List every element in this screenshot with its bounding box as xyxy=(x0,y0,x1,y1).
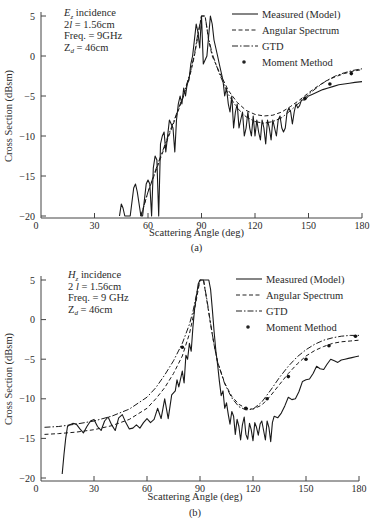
y-tick-label: −10 xyxy=(19,393,35,404)
annotation-line: Freq. = 9GHz xyxy=(64,30,122,41)
x-tick-label: 180 xyxy=(355,220,370,231)
x-axis-label: Scattering Angle (deg) xyxy=(147,491,243,503)
moment-method-point xyxy=(328,82,332,86)
y-tick-label: −5 xyxy=(24,91,35,102)
y-tick-label: −5 xyxy=(24,354,35,365)
chart-b: 50−5−10−15−200306090120150180Scattering … xyxy=(3,269,367,519)
legend-label: Measured (Model) xyxy=(266,274,345,286)
moment-method-point xyxy=(350,72,354,76)
legend-label: Angular Spectrum xyxy=(266,290,343,301)
annotation-line: Zd = 46cm xyxy=(68,304,112,318)
moment-method-point xyxy=(287,375,291,379)
y-tick-label: −15 xyxy=(19,433,35,444)
moment-method-point xyxy=(327,344,331,348)
x-tick-label: 0 xyxy=(34,220,39,231)
x-tick-label: 30 xyxy=(89,483,99,494)
figure-caption: (a) xyxy=(191,242,203,254)
annotation-line: Zd = 46cm xyxy=(64,42,108,56)
y-tick-label: 0 xyxy=(30,51,35,62)
x-tick-label: 120 xyxy=(246,483,261,494)
legend-label: Moment Method xyxy=(262,57,334,68)
legend-marker-dot-icon xyxy=(246,325,250,329)
y-tick-label: −20 xyxy=(19,473,35,484)
y-tick-label: 5 xyxy=(30,275,35,286)
figure-caption: (b) xyxy=(189,507,202,519)
x-tick-label: 30 xyxy=(90,220,100,231)
series-gtd xyxy=(141,16,362,216)
legend-label: Measured (Model) xyxy=(262,9,341,21)
y-tick-label: −10 xyxy=(19,131,35,142)
y-tick-label: 0 xyxy=(30,314,35,325)
moment-method-point xyxy=(303,97,307,101)
x-tick-label: 180 xyxy=(352,483,367,494)
annotation-line: 2 l = 1.56cm xyxy=(68,281,121,292)
annotation-line: Freq. = 9 GHz xyxy=(68,292,129,303)
moment-method-point xyxy=(181,346,185,350)
moment-method-point xyxy=(304,357,308,361)
y-tick-label: 5 xyxy=(30,11,35,22)
figure: 50−5−10−15−200306090120150180Scattering … xyxy=(0,0,375,530)
chart-a: 50−5−10−15−200306090120150180Scattering … xyxy=(3,7,370,254)
legend-label: Moment Method xyxy=(266,322,338,333)
moment-method-point xyxy=(244,407,248,411)
x-tick-label: 0 xyxy=(34,483,39,494)
x-axis-label: Scattering Angle (deg) xyxy=(149,227,245,239)
y-tick-label: −15 xyxy=(19,171,35,182)
legend-label: GTD xyxy=(266,306,288,317)
annotation-line: 2l = 1.56cm xyxy=(64,19,115,30)
y-axis-label: Cross Section (dBsm) xyxy=(3,332,15,425)
x-tick-label: 150 xyxy=(299,483,314,494)
series-angular-spectrum xyxy=(141,16,362,216)
legend-marker-dot-icon xyxy=(242,60,246,64)
y-axis-label: Cross Section (dBsm) xyxy=(3,69,15,162)
moment-method-point xyxy=(354,334,358,338)
legend-label: Angular Spectrum xyxy=(262,25,339,36)
moment-method-point xyxy=(265,397,269,401)
legend-label: GTD xyxy=(262,41,284,52)
x-tick-label: 150 xyxy=(301,220,316,231)
x-tick-label: 120 xyxy=(248,220,263,231)
